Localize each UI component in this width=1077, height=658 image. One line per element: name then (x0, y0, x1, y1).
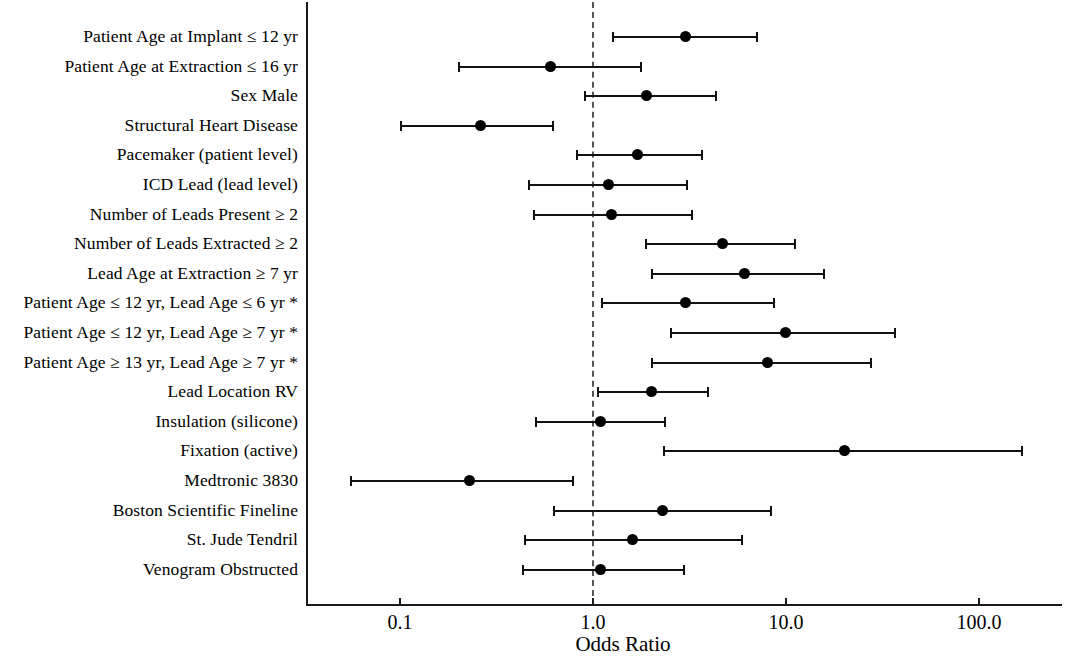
ci-row (458, 60, 642, 74)
ci-upper-cap (741, 535, 743, 545)
ci-lower-cap (612, 32, 614, 42)
odds-ratio-point (545, 61, 556, 72)
odds-ratio-point (606, 209, 617, 220)
ci-lower-cap (400, 121, 402, 131)
ci-lower-cap (528, 180, 530, 190)
odds-ratio-point (595, 564, 606, 575)
ci-row (601, 296, 775, 310)
ci-lower-cap (601, 298, 603, 308)
row-label: Lead Age at Extraction ≥ 7 yr (87, 265, 298, 283)
row-label: Patient Age ≤ 12 yr, Lead Age ≥ 7 yr * (23, 324, 298, 342)
ci-row (663, 444, 1024, 458)
ci-row (535, 415, 666, 429)
row-label: Lead Location RV (168, 383, 298, 401)
ci-row (350, 474, 574, 488)
ci-lower-cap (584, 91, 586, 101)
ci-upper-cap (691, 210, 693, 220)
ci-row (400, 119, 554, 133)
row-label: Structural Heart Disease (125, 117, 298, 135)
x-tick (592, 598, 594, 606)
ci-upper-cap (894, 328, 896, 338)
odds-ratio-point (464, 475, 475, 486)
odds-ratio-point (603, 179, 614, 190)
row-label: Venogram Obstructed (143, 561, 298, 579)
odds-ratio-point (839, 445, 850, 456)
ci-lower-cap (651, 269, 653, 279)
ci-upper-cap (794, 239, 796, 249)
ci-lower-cap (597, 387, 599, 397)
ci-lower-cap (651, 358, 653, 368)
x-axis-line (306, 604, 1062, 606)
ci-lower-cap (663, 446, 665, 456)
ci-lower-cap (670, 328, 672, 338)
ci-lower-cap (533, 210, 535, 220)
ci-upper-cap (686, 180, 688, 190)
ci-upper-cap (1021, 446, 1023, 456)
odds-ratio-point (680, 31, 691, 42)
ci-row (651, 356, 872, 370)
odds-ratio-point (595, 416, 606, 427)
odds-ratio-point (717, 238, 728, 249)
ci-upper-cap (707, 387, 709, 397)
row-label: Insulation (silicone) (155, 413, 298, 431)
ci-row (645, 237, 797, 251)
row-label: Sex Male (231, 87, 298, 105)
ci-lower-cap (524, 535, 526, 545)
odds-ratio-point (646, 386, 657, 397)
y-axis-line (306, 2, 308, 606)
odds-ratio-point (641, 90, 652, 101)
row-label: Number of Leads Extracted ≥ 2 (74, 235, 298, 253)
row-label: Patient Age ≤ 12 yr, Lead Age ≤ 6 yr * (23, 295, 298, 313)
row-label: Boston Scientific Fineline (113, 502, 298, 520)
ci-row (553, 504, 772, 518)
ci-upper-cap (823, 269, 825, 279)
ci-upper-cap (683, 565, 685, 575)
x-tick (399, 598, 401, 606)
odds-ratio-point (739, 268, 750, 279)
ci-whisker-line (350, 480, 574, 482)
ci-upper-cap (572, 476, 574, 486)
ci-lower-cap (458, 62, 460, 72)
row-label: Number of Leads Present ≥ 2 (90, 206, 298, 224)
x-tick-label: 100.0 (957, 612, 1002, 632)
ci-upper-cap (664, 417, 666, 427)
ci-row (651, 267, 825, 281)
ci-row (584, 89, 717, 103)
ci-row (522, 563, 685, 577)
ci-upper-cap (756, 32, 758, 42)
ci-row (612, 30, 759, 44)
row-label: Patient Age ≥ 13 yr, Lead Age ≥ 7 yr * (23, 354, 298, 372)
row-label: Medtronic 3830 (184, 472, 298, 490)
row-label: ICD Lead (lead level) (143, 176, 298, 194)
x-tick (785, 598, 787, 606)
row-label-column: Patient Age at Implant ≤ 12 yrPatient Ag… (0, 0, 303, 605)
row-label: Fixation (active) (180, 443, 298, 461)
odds-ratio-point (475, 120, 486, 131)
ci-upper-cap (770, 506, 772, 516)
row-label: Patient Age at Extraction ≤ 16 yr (64, 58, 298, 76)
ci-row (524, 533, 743, 547)
ci-upper-cap (701, 150, 703, 160)
ci-row (670, 326, 896, 340)
odds-ratio-point (657, 505, 668, 516)
ci-upper-cap (870, 358, 872, 368)
ci-upper-cap (715, 91, 717, 101)
odds-ratio-point (627, 534, 638, 545)
x-tick (978, 598, 980, 606)
row-label: Pacemaker (patient level) (117, 147, 298, 165)
x-tick-label: 1.0 (581, 612, 606, 632)
ci-upper-cap (773, 298, 775, 308)
ci-lower-cap (645, 239, 647, 249)
x-tick-label: 0.1 (388, 612, 413, 632)
ci-row (528, 178, 688, 192)
ci-lower-cap (350, 476, 352, 486)
odds-ratio-point (780, 327, 791, 338)
row-label: Patient Age at Implant ≤ 12 yr (83, 28, 298, 46)
ci-lower-cap (576, 150, 578, 160)
ci-upper-cap (640, 62, 642, 72)
ci-lower-cap (553, 506, 555, 516)
odds-ratio-point (680, 297, 691, 308)
forest-plot: Patient Age at Implant ≤ 12 yrPatient Ag… (0, 0, 1077, 658)
x-tick-label: 10.0 (769, 612, 804, 632)
ci-lower-cap (535, 417, 537, 427)
